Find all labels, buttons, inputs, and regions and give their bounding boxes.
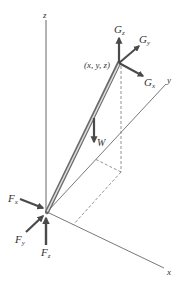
gy-label: Gy xyxy=(139,33,151,47)
gy-arrow xyxy=(119,46,139,63)
rod-highlight xyxy=(48,63,120,211)
point-label: (x, y, z) xyxy=(84,60,110,70)
x-axis xyxy=(47,212,164,268)
y-axis-label: y xyxy=(166,75,171,85)
fx-arrow xyxy=(20,199,43,208)
weight-label: W xyxy=(97,137,107,148)
x-axis-label: x xyxy=(166,267,171,277)
gx-arrow xyxy=(119,63,143,76)
fy-arrow xyxy=(26,216,43,232)
gz-label: Gz xyxy=(114,23,125,37)
z-axis-label: z xyxy=(42,10,47,20)
fx-label: Fx xyxy=(7,192,19,206)
y-axis xyxy=(47,84,166,212)
gx-label: Gx xyxy=(144,76,156,90)
free-body-diagram: z y x (x, y, z) Gz Gy Gx W Fx Fy Fz xyxy=(0,0,187,289)
fy-label: Fy xyxy=(14,233,26,247)
fz-label: Fz xyxy=(40,246,51,260)
